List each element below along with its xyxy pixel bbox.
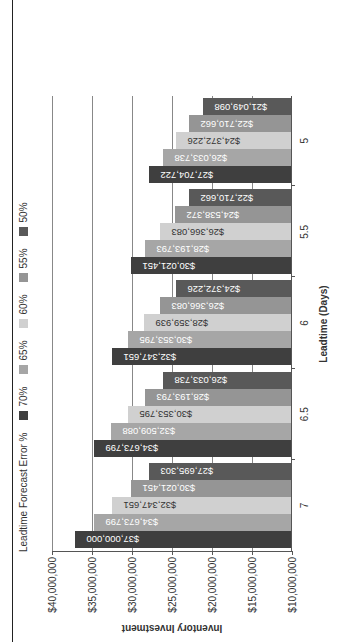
bar: $28,193,793: [145, 240, 291, 257]
gridline: [92, 96, 93, 551]
bar-chart: Leadtime Forecast Error % 70% 65% 60% 55…: [0, 0, 341, 642]
bar-value-label: $32,347,651: [124, 500, 177, 511]
y-tick-label: $25,000,000: [167, 551, 178, 615]
plot-area: $10,000,000$15,000,000$20,000,000$25,000…: [52, 96, 292, 552]
bar-value-label: $30,353,795: [140, 335, 193, 346]
x-axis-title: Leadtime (Days): [318, 96, 329, 552]
bar-value-label: $30,021,451: [142, 260, 195, 271]
y-tick-label: $30,000,000: [127, 551, 138, 615]
bar-value-label: $32,509,088: [122, 426, 175, 437]
bar: $30,021,451: [131, 480, 291, 497]
x-tick-label: 7: [299, 503, 310, 509]
bar-value-label: $21,049,098: [214, 101, 267, 112]
bar: $30,021,451: [131, 257, 291, 274]
legend-swatch: [19, 227, 28, 236]
y-tick-label: $15,000,000: [247, 551, 258, 615]
x-tick-label: 5.5: [299, 225, 310, 239]
bar: $27,695,303: [149, 463, 291, 480]
y-tick-label: $20,000,000: [207, 551, 218, 615]
x-tick-mark: [291, 368, 295, 369]
bar: $37,000,000: [75, 531, 291, 548]
bar: $26,033,738: [163, 149, 291, 166]
bar: $22,710,662: [189, 115, 291, 132]
bar-value-label: $26,033,738: [174, 375, 227, 386]
legend: Leadtime Forecast Error % 70% 65% 60% 55…: [18, 202, 29, 552]
bar: $32,347,651: [112, 349, 291, 366]
bar-value-label: $37,000,000: [87, 534, 140, 545]
bar-value-label: $28,359,939: [156, 318, 209, 329]
x-tick-label: 6: [299, 320, 310, 326]
bar: $24,372,226: [176, 281, 291, 298]
bar-value-label: $30,021,451: [142, 483, 195, 494]
bar-value-label: $22,710,662: [201, 118, 254, 129]
x-tick-mark: [291, 459, 295, 460]
bar: $26,366,083: [160, 223, 291, 240]
legend-item: 60%: [18, 294, 29, 328]
bar: $30,353,795: [128, 332, 291, 349]
bar: $26,033,738: [163, 372, 291, 389]
bar-value-label: $24,372,226: [188, 284, 241, 295]
bar-value-label: $32,347,651: [124, 352, 177, 363]
bar-value-label: $34,673,799: [105, 517, 158, 528]
legend-item: 50%: [18, 202, 29, 236]
legend-label: 60%: [18, 294, 29, 314]
legend-label: 55%: [18, 248, 29, 268]
bar-value-label: $26,366,083: [172, 301, 225, 312]
y-tick-label: $40,000,000: [47, 551, 58, 615]
legend-swatch: [19, 319, 28, 328]
bar-value-label: $28,193,793: [157, 243, 210, 254]
bar: $28,193,793: [145, 389, 291, 406]
bar: $32,347,651: [112, 497, 291, 514]
bar-value-label: $24,372,226: [188, 135, 241, 146]
y-tick-label: $35,000,000: [87, 551, 98, 615]
bar: $32,509,088: [111, 423, 291, 440]
bar-value-label: $30,353,795: [140, 409, 193, 420]
bar-value-label: $26,366,083: [172, 226, 225, 237]
legend-label: 70%: [18, 386, 29, 406]
x-tick-label: 5: [299, 138, 310, 144]
bar: $26,366,083: [160, 298, 291, 315]
x-tick-mark: [291, 185, 295, 186]
legend-title: Leadtime Forecast Error %: [18, 433, 29, 553]
legend-label: 65%: [18, 340, 29, 360]
bar: $34,673,799: [94, 440, 291, 457]
legend-label: 50%: [18, 202, 29, 222]
bar-value-label: $34,673,799: [105, 443, 158, 454]
legend-swatch: [19, 365, 28, 374]
bar: $27,704,722: [149, 166, 291, 183]
bar-value-label: $27,695,303: [161, 466, 214, 477]
bar-value-label: $24,538,372: [186, 209, 239, 220]
x-tick-mark: [291, 276, 295, 277]
bar-value-label: $27,704,722: [161, 169, 214, 180]
bar-value-label: $26,033,738: [174, 152, 227, 163]
legend-item: 55%: [18, 248, 29, 282]
bar: $24,372,226: [176, 132, 291, 149]
bar: $30,353,795: [128, 406, 291, 423]
bar: $34,673,799: [94, 514, 291, 531]
y-axis-title: Inventory Investment: [122, 623, 223, 634]
bar-value-label: $22,710,662: [201, 192, 254, 203]
bar: $28,359,939: [144, 315, 291, 332]
legend-item: 70%: [18, 386, 29, 420]
legend-swatch: [19, 412, 28, 421]
legend-swatch: [19, 273, 28, 282]
legend-item: 65%: [18, 340, 29, 374]
bar: $22,710,662: [189, 189, 291, 206]
bar: $21,049,098: [203, 98, 291, 115]
gridline: [52, 96, 53, 551]
bar-value-label: $28,193,793: [157, 392, 210, 403]
bar: $24,538,372: [175, 206, 291, 223]
y-tick-label: $10,000,000: [287, 551, 298, 615]
x-tick-label: 6.5: [299, 407, 310, 421]
